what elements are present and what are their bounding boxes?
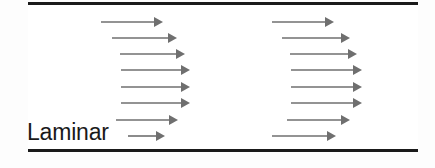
laminar-flow-figure: Laminar [0, 0, 435, 168]
pipe-wall-bottom-line [28, 149, 418, 152]
flow-regime-label: Laminar [27, 121, 109, 144]
pipe-wall-top-line [28, 2, 418, 5]
